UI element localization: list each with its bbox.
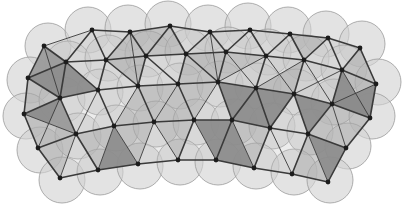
node	[90, 28, 95, 33]
node	[26, 76, 31, 81]
node	[208, 30, 213, 35]
node	[192, 118, 197, 123]
node	[136, 162, 141, 167]
node	[104, 58, 109, 63]
node	[214, 158, 219, 163]
node	[58, 96, 63, 101]
node	[96, 168, 101, 173]
node	[230, 118, 235, 123]
node	[326, 180, 331, 185]
figure-container	[0, 0, 404, 222]
node	[268, 126, 273, 131]
node	[176, 158, 181, 163]
node	[330, 102, 335, 107]
node	[136, 84, 141, 89]
node	[374, 82, 379, 87]
node	[254, 86, 259, 91]
node	[224, 50, 229, 55]
node	[248, 28, 253, 33]
node	[96, 88, 101, 93]
node	[306, 132, 311, 137]
node	[152, 120, 157, 125]
node	[290, 172, 295, 177]
node	[344, 146, 349, 151]
node	[112, 124, 117, 129]
node	[340, 68, 345, 73]
node	[184, 52, 189, 57]
node	[144, 54, 149, 59]
node	[36, 146, 41, 151]
node	[326, 36, 331, 41]
node	[264, 54, 269, 59]
node	[292, 92, 297, 97]
packing-triangulation-figure	[0, 0, 404, 222]
node	[288, 32, 293, 37]
node	[368, 116, 373, 121]
node	[128, 30, 133, 35]
node	[58, 176, 63, 181]
node	[22, 112, 27, 117]
node	[216, 80, 221, 85]
node	[168, 24, 173, 29]
node	[302, 58, 307, 63]
node	[74, 132, 79, 137]
node	[176, 82, 181, 87]
node	[252, 166, 257, 171]
node	[42, 44, 47, 49]
node	[64, 60, 69, 65]
node	[358, 46, 363, 51]
